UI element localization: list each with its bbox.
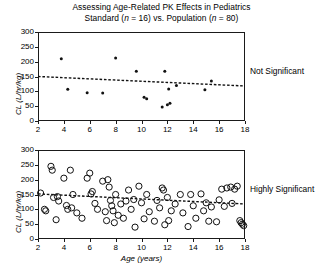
annotation-highly-significant: Highly Significant — [250, 184, 314, 194]
x-tick-label: 4 — [52, 125, 76, 134]
data-point — [92, 200, 98, 206]
x-tick-mark — [245, 239, 246, 242]
x-tick-label: 6 — [78, 125, 102, 134]
y-tick-label: 100 — [0, 204, 34, 213]
data-point — [131, 196, 137, 202]
data-point — [144, 191, 150, 197]
data-point — [135, 70, 138, 73]
data-point — [67, 167, 73, 173]
y-tick-mark — [35, 165, 38, 166]
y-tick-label: 50 — [0, 219, 34, 228]
data-point — [166, 218, 172, 224]
data-point — [43, 208, 49, 214]
data-point — [175, 84, 178, 87]
data-point — [114, 57, 117, 60]
data-point — [94, 206, 100, 212]
data-point — [210, 79, 213, 82]
y-tick-label: 200 — [0, 57, 34, 66]
y-tick-label: 300 — [0, 145, 34, 154]
data-point — [106, 184, 112, 190]
x-tick-mark — [219, 121, 220, 124]
data-point — [166, 103, 169, 106]
data-point — [221, 203, 227, 209]
data-point — [141, 216, 147, 222]
data-point — [168, 102, 171, 105]
x-tick-label: 2 — [26, 125, 50, 134]
data-point — [102, 209, 108, 215]
x-tick-label: 10 — [130, 243, 154, 252]
data-point — [206, 218, 212, 224]
data-point — [60, 57, 63, 60]
data-point — [213, 219, 219, 225]
data-point — [69, 205, 75, 211]
x-tick-mark — [167, 239, 168, 242]
data-point — [188, 191, 194, 197]
x-tick-mark — [193, 121, 194, 124]
x-tick-label: 8 — [104, 243, 128, 252]
x-tick-mark — [167, 121, 168, 124]
data-point — [138, 200, 144, 206]
y-tick-mark — [35, 32, 38, 33]
x-tick-label: 16 — [207, 125, 231, 134]
data-point — [66, 88, 69, 91]
data-point — [113, 191, 119, 197]
x-tick-mark — [142, 239, 143, 242]
x-tick-label: 10 — [130, 125, 154, 134]
data-point — [120, 215, 126, 221]
data-point — [101, 92, 104, 95]
data-point — [145, 97, 148, 100]
x-tick-mark — [245, 121, 246, 124]
x-tick-label: 2 — [26, 243, 50, 252]
x-tick-label: 14 — [181, 243, 205, 252]
y-tick-mark — [35, 180, 38, 181]
data-point — [151, 218, 157, 224]
data-point — [216, 197, 222, 203]
data-point — [79, 215, 85, 221]
y-tick-label: 300 — [0, 27, 34, 36]
data-point — [180, 210, 186, 216]
data-point — [177, 191, 183, 197]
data-point — [48, 163, 54, 169]
x-tick-mark — [90, 239, 91, 242]
y-tick-label: 150 — [0, 190, 34, 199]
x-tick-label: 4 — [52, 243, 76, 252]
data-point — [172, 201, 178, 207]
x-tick-label: 6 — [78, 243, 102, 252]
data-point — [136, 183, 142, 189]
x-tick-label: 12 — [155, 243, 179, 252]
data-point — [74, 210, 80, 216]
y-tick-label: 150 — [0, 72, 34, 81]
data-point — [201, 208, 207, 214]
data-point — [87, 170, 93, 176]
y-tick-mark — [35, 62, 38, 63]
y-tick-label: 250 — [0, 160, 34, 169]
annotation-not-significant: Not Significant — [250, 66, 304, 76]
data-point — [86, 91, 89, 94]
y-tick-label: 0 — [0, 234, 34, 243]
data-point — [61, 175, 67, 181]
y-tick-mark — [35, 150, 38, 151]
x-tick-mark — [38, 239, 39, 242]
x-tick-label: 16 — [207, 243, 231, 252]
y-tick-mark — [35, 195, 38, 196]
y-tick-label: 0 — [0, 116, 34, 125]
x-tick-label: 18 — [233, 125, 257, 134]
data-point — [193, 215, 199, 221]
data-point — [128, 206, 134, 212]
y-tick-mark — [35, 77, 38, 78]
data-point — [163, 70, 166, 73]
y-tick-label: 200 — [0, 175, 34, 184]
x-tick-mark — [142, 121, 143, 124]
data-point — [125, 187, 131, 193]
data-point — [49, 167, 55, 173]
data-point — [203, 88, 206, 91]
data-point — [143, 96, 146, 99]
data-point — [103, 218, 109, 224]
data-point — [167, 87, 170, 90]
regression-trend-line — [38, 77, 245, 86]
x-tick-label: 14 — [181, 125, 205, 134]
data-point — [208, 204, 214, 210]
panel-standard: CL (L/hr/kg) Not Significant 05010015020… — [0, 0, 323, 140]
y-tick-mark — [35, 91, 38, 92]
data-point — [190, 203, 196, 209]
